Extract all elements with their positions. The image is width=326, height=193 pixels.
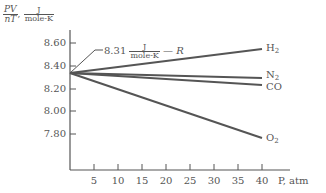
y-ticks xyxy=(70,43,76,134)
ylabel-denominator: nT xyxy=(3,15,18,24)
series-label-n2: N2 xyxy=(266,70,279,80)
x-tick-label: 35 xyxy=(228,176,248,186)
x-tick-label: 10 xyxy=(108,176,128,186)
y-axis-label: PV nT , J mole-K xyxy=(3,5,54,25)
annotation-symbol: R xyxy=(176,45,184,56)
x-axis-label: P, atm xyxy=(278,176,309,186)
ylabel-unit-denominator: mole-K xyxy=(24,15,54,23)
x-tick-label: 20 xyxy=(156,176,176,186)
annotation-r-value: 8.31 J mole-K — R xyxy=(104,43,184,61)
chart-canvas xyxy=(0,0,326,193)
y-tick-label: 8.60 xyxy=(26,38,66,48)
x-tick-label: 25 xyxy=(180,176,200,186)
annotation-unit-denominator: mole-K xyxy=(129,52,159,60)
x-tick-label: 5 xyxy=(84,176,104,186)
x-ticks xyxy=(94,164,262,170)
y-tick-label: 8.20 xyxy=(26,84,66,94)
x-tick-label: 40 xyxy=(252,176,272,186)
y-tick-label: 7.80 xyxy=(26,129,66,139)
series-label-co: CO xyxy=(266,82,282,92)
x-tick-label: 15 xyxy=(132,176,152,186)
y-tick-label: 8.40 xyxy=(26,61,66,71)
series-label-h2: H2 xyxy=(266,43,279,53)
y-tick-label: 8.00 xyxy=(26,106,66,116)
series-label-o2: O2 xyxy=(266,133,279,143)
annotation-value: 8.31 xyxy=(104,45,126,56)
x-tick-label: 30 xyxy=(204,176,224,186)
